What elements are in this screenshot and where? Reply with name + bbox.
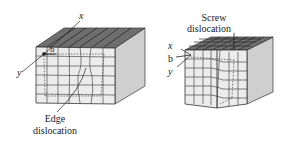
screw-dislocation-block: Screw dislocation x b y xyxy=(167,12,273,108)
edge-x-label: x xyxy=(78,10,84,21)
screw-b-label: b xyxy=(168,53,173,64)
edge-y-label: y xyxy=(16,67,22,78)
edge-dislocation-block: x y b Edge dislocation xyxy=(16,10,145,136)
edge-caption-line1: Edge xyxy=(45,113,66,124)
screw-y-label: y xyxy=(167,66,173,77)
screw-caption-line2: dislocation xyxy=(187,23,231,34)
edge-b-label: b xyxy=(50,44,55,54)
screw-x-label: x xyxy=(167,40,173,51)
edge-caption-line2: dislocation xyxy=(33,125,77,136)
screw-caption-line1: Screw xyxy=(202,12,228,23)
